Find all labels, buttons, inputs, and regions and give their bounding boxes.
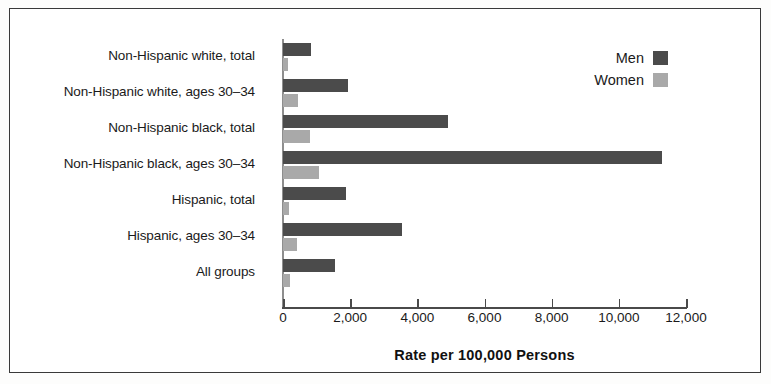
chart-figure: 02,0004,0006,0008,00010,00012,000 Non-Hi… (0, 0, 771, 384)
legend-item-women: Women (570, 69, 720, 91)
bar-men (283, 151, 662, 164)
bar-women (283, 94, 298, 107)
bar-women (283, 130, 310, 143)
legend-item-men: Men (570, 47, 720, 69)
category-label: Hispanic, ages 30–34 (0, 228, 255, 243)
legend-swatch-women (653, 73, 668, 87)
bar-men (283, 223, 402, 236)
category-label: Non-Hispanic white, ages 30–34 (0, 84, 255, 99)
bar-women (283, 58, 288, 71)
chart-frame: 02,0004,0006,0008,00010,00012,000 Non-Hi… (9, 8, 761, 373)
x-axis-tick (686, 299, 688, 308)
category-label: Non-Hispanic white, total (0, 48, 255, 63)
bar-group (283, 111, 686, 147)
category-label: All groups (0, 264, 255, 279)
bar-group (283, 183, 686, 219)
bar-men (283, 79, 348, 92)
legend-swatch-men (653, 51, 668, 65)
x-axis-tick-label: 8,000 (535, 310, 569, 325)
x-axis-tick-label: 12,000 (665, 310, 706, 325)
category-label: Non-Hispanic black, ages 30–34 (0, 156, 255, 171)
bar-group (283, 219, 686, 255)
bar-group (283, 255, 686, 291)
legend-label-women: Women (570, 72, 653, 88)
legend-label-men: Men (570, 50, 653, 66)
x-axis-tick-label: 10,000 (598, 310, 639, 325)
x-axis-tick-label: 4,000 (400, 310, 434, 325)
bar-women (283, 274, 290, 287)
category-label: Hispanic, total (0, 192, 255, 207)
x-axis-tick-label: 2,000 (333, 310, 367, 325)
bar-men (283, 115, 448, 128)
bar-women (283, 202, 289, 215)
category-label: Non-Hispanic black, total (0, 120, 255, 135)
x-axis-tick-label: 6,000 (468, 310, 502, 325)
bar-men (283, 187, 346, 200)
bar-men (283, 259, 335, 272)
bar-men (283, 43, 311, 56)
bar-women (283, 166, 319, 179)
x-axis-tick-label: 0 (279, 310, 287, 325)
chart-legend: Men Women (570, 47, 720, 91)
bar-group (283, 147, 686, 183)
x-axis-title: Rate per 100,000 Persons (283, 347, 686, 363)
bar-women (283, 238, 297, 251)
